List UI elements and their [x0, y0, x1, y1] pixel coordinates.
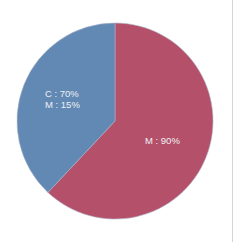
red-slice-label: M : 90% — [145, 135, 180, 146]
blue-slice-label-line1: C : 70% — [45, 88, 79, 99]
panel-divider — [232, 0, 233, 242]
pie-slices — [17, 23, 213, 219]
pie-chart: C : 70% M : 15% M : 90% — [0, 0, 237, 242]
pie-chart-svg: C : 70% M : 15% M : 90% — [0, 0, 237, 242]
blue-slice-label-line2: M : 15% — [45, 99, 80, 110]
